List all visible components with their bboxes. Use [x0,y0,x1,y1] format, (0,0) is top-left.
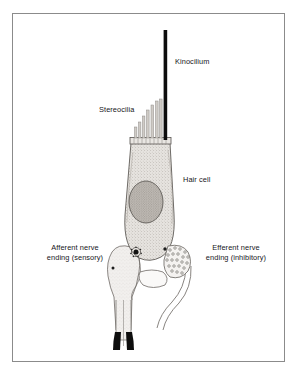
label-afferent-line-1: Afferent nerve [31,243,119,253]
label-afferent-line-2: ending (sensory) [31,253,119,263]
label-efferent-nerve-ending: Efferent nerve ending (inhibitory) [188,243,284,262]
label-kinocilium: Kinocilium [175,57,209,67]
hair-cell-diagram [0,0,299,375]
nucleus [129,181,163,223]
afferent-vesicle [112,267,115,270]
label-efferent-line-2: ending (inhibitory) [188,253,284,263]
label-hair-cell: Hair cell [183,175,210,185]
figure-root: Kinocilium Stereocilia Hair cell Afferen… [0,0,299,375]
label-efferent-line-1: Efferent nerve [188,243,284,253]
efferent-synapse-marker [163,247,166,250]
label-afferent-nerve-ending: Afferent nerve ending (sensory) [31,243,119,262]
kinocilium [164,30,168,140]
stereocilia-bundle [135,99,163,138]
hair-cell-body [125,143,174,260]
efferent-nerve-ending [163,245,190,278]
basal-lobe [139,270,167,288]
label-stereocilia: Stereocilia [99,105,134,115]
